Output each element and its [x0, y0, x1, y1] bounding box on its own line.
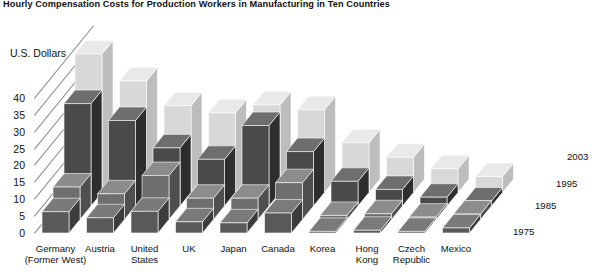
bar-front-1975-1 [87, 218, 114, 233]
bar-front-1975-4 [220, 223, 247, 233]
legend-label-2003: 2003 [567, 151, 588, 162]
legend-label-1995: 1995 [556, 178, 577, 189]
bar-top-1975-8 [398, 218, 436, 232]
bar-top-1975-6 [309, 218, 347, 232]
bar-front-1975-6 [309, 231, 336, 233]
chart-container: Hourly Compensation Costs for Production… [0, 0, 614, 278]
bar-front-1975-2 [131, 211, 158, 233]
bar-top-1985-8 [409, 204, 447, 218]
legend-label-1985: 1985 [535, 200, 556, 211]
x-axis-label: Mexico [425, 243, 488, 254]
bar-side-1995-0 [91, 90, 102, 206]
bar-front-1975-0 [42, 212, 69, 233]
bar-front-1975-8 [398, 231, 425, 233]
legend-label-1975: 1975 [513, 226, 534, 237]
bar-front-1975-5 [265, 213, 292, 233]
bar-top-1975-7 [354, 217, 392, 231]
bar-front-1975-7 [354, 230, 381, 233]
bar-front-1975-3 [176, 222, 203, 233]
bar-front-1975-9 [443, 228, 470, 233]
